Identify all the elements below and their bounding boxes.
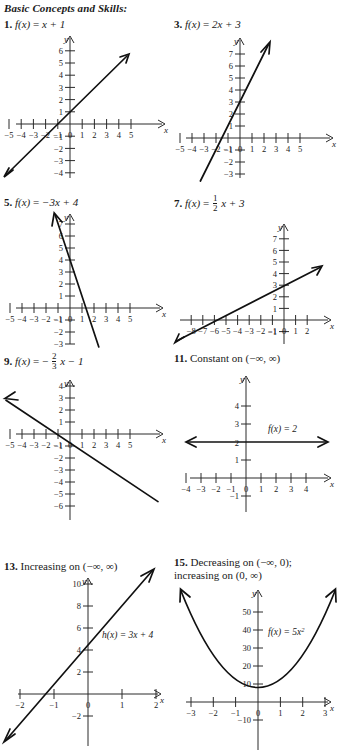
graph-5-svg: −5−4 −3−2 −1 123 45 123 456 7 −1−2−3 0 y… xyxy=(8,210,172,346)
exercise-3-rhs: 2x + 3 xyxy=(212,18,241,30)
exercise-15: 15. Decreasing on (−∞, 0); increasing on… xyxy=(174,556,340,581)
svg-text:20: 20 xyxy=(243,661,252,671)
svg-text:−2: −2 xyxy=(72,711,81,721)
svg-text:−5: −5 xyxy=(5,314,14,324)
svg-text:30: 30 xyxy=(243,643,252,653)
exercise-9-label: 9. f(x) = − 2 3 x − 1 xyxy=(4,352,84,371)
graph-3-axes xyxy=(186,38,333,178)
svg-text:−2: −2 xyxy=(211,484,220,494)
exercise-7-label: 7. f(x) = 1 2 x + 3 xyxy=(174,194,245,213)
exercise-11: 11. Constant on (−∞, ∞) xyxy=(174,352,280,364)
exercise-5-label: 5. f(x) = −3x + 4 xyxy=(4,196,78,208)
svg-text:−2: −2 xyxy=(54,144,63,154)
exercise-13-label: 13. Increasing on (−∞, ∞) xyxy=(4,560,118,572)
graph-3-origin: 0 xyxy=(238,144,242,154)
svg-text:3: 3 xyxy=(59,393,63,403)
svg-text:1: 1 xyxy=(59,291,63,301)
exercise-9: 9. f(x) = − 2 3 x − 1 xyxy=(4,352,84,371)
graph-13: −2−1 12 24 68 10 −2 0 y x h(x) = 3x + 4 xyxy=(8,574,172,752)
svg-text:2: 2 xyxy=(262,144,266,154)
svg-text:7: 7 xyxy=(273,234,277,244)
graph-9: −5−4 −3−2 −1 123 45 123 4 −1−2−3 −4−5−6 … xyxy=(8,376,172,524)
graph-3-ylabel: y xyxy=(233,36,238,46)
exercise-7-denominator: 2 xyxy=(213,203,218,213)
graph-11-svg: −4−3 −2−1 12 34 12 34 −1 0 y x f(x) = 2 xyxy=(180,368,340,514)
svg-text:−1: −1 xyxy=(224,145,233,155)
exercise-3-fn: f(x) xyxy=(185,18,200,30)
svg-text:−2: −2 xyxy=(15,700,24,710)
exercise-3-eq: = xyxy=(203,18,209,30)
svg-text:−1: −1 xyxy=(54,441,63,451)
graph-1-yticklabels: 123 456 −1−2 −3−4 xyxy=(54,46,64,178)
graph-13-origin: 0 xyxy=(86,700,90,710)
graph-15-origin: 0 xyxy=(256,708,260,718)
svg-text:−2: −2 xyxy=(256,326,265,336)
svg-text:6: 6 xyxy=(59,46,63,56)
svg-text:5: 5 xyxy=(229,73,233,83)
svg-text:50: 50 xyxy=(243,607,252,617)
svg-text:2: 2 xyxy=(273,292,277,302)
graph-11: −4−3 −2−1 12 34 12 34 −1 0 y x f(x) = 2 xyxy=(180,368,340,514)
svg-text:2: 2 xyxy=(92,440,96,450)
exercise-9-fn: f(x) xyxy=(15,355,30,367)
svg-text:−4: −4 xyxy=(17,314,27,324)
svg-text:2: 2 xyxy=(59,279,63,289)
graph-11-annotation: f(x) = 2 xyxy=(268,424,297,435)
svg-text:−3: −3 xyxy=(29,314,38,324)
exercise-7-rhs: x + 3 xyxy=(221,197,244,209)
svg-text:−5: −5 xyxy=(5,440,14,450)
exercise-11-label: 11. Constant on (−∞, ∞) xyxy=(174,352,280,364)
svg-text:3: 3 xyxy=(229,97,233,107)
svg-text:6: 6 xyxy=(229,61,233,71)
svg-text:4: 4 xyxy=(116,440,121,450)
exercise-11-number: 11. xyxy=(174,352,187,364)
section-heading: Basic Concepts and Skills: xyxy=(4,2,127,14)
svg-text:5: 5 xyxy=(298,144,302,154)
svg-text:1: 1 xyxy=(80,130,84,140)
exercise-13: 13. Increasing on (−∞, ∞) xyxy=(4,560,118,572)
graph-3: −5−4 −3−2 −1 123 45 123 456 7 −1−2−3 0 y… xyxy=(178,32,342,180)
exercise-5-eq: = xyxy=(33,196,39,208)
graph-5-ylabel: y xyxy=(63,212,68,222)
graph-9-ylabel: y xyxy=(63,378,68,388)
svg-text:2: 2 xyxy=(92,314,96,324)
svg-text:1: 1 xyxy=(80,314,84,324)
svg-text:−2: −2 xyxy=(209,708,218,718)
exercise-9-eq: = xyxy=(33,355,39,367)
svg-text:1: 1 xyxy=(250,144,254,154)
svg-text:4: 4 xyxy=(59,70,64,80)
exercise-7-eq: = xyxy=(203,197,209,209)
svg-text:−5: −5 xyxy=(221,326,230,336)
graph-15-ylabel: y xyxy=(251,588,256,598)
exercise-13-number: 13. xyxy=(4,560,18,572)
exercise-1-rhs: x + 1 xyxy=(42,18,65,30)
svg-text:−4: −4 xyxy=(54,168,64,178)
svg-text:3: 3 xyxy=(104,130,108,140)
graph-11-xlabel: x xyxy=(329,479,334,489)
exercise-9-denominator: 3 xyxy=(52,361,57,371)
exercise-7: 7. f(x) = 1 2 x + 3 xyxy=(174,194,245,213)
svg-text:3: 3 xyxy=(104,314,108,324)
svg-text:1: 1 xyxy=(59,107,63,117)
svg-text:−2: −2 xyxy=(41,440,50,450)
svg-text:−4: −4 xyxy=(233,326,243,336)
exercise-3-number: 3. xyxy=(174,18,182,30)
exercise-5-fn: f(x) xyxy=(15,196,30,208)
svg-text:2: 2 xyxy=(59,95,63,105)
exercise-1-number: 1. xyxy=(4,18,12,30)
svg-text:4: 4 xyxy=(59,381,64,391)
graph-7-origin: 0 xyxy=(282,326,286,336)
graph-13-yticklabels: 24 68 10 −2 xyxy=(72,579,82,721)
graph-9-yticklabels: 123 4 −1−2−3 −4−5−6 xyxy=(54,381,64,511)
graph-1: −5−4 −3−2 −1 12 345 123 456 −1−2 −3−4 0 … xyxy=(8,32,172,180)
svg-text:4: 4 xyxy=(229,85,234,95)
svg-text:−2: −2 xyxy=(41,314,50,324)
svg-text:−2: −2 xyxy=(54,453,63,463)
exercise-9-fraction: 2 3 xyxy=(52,352,57,371)
graph-13-ylabel: y xyxy=(81,576,86,586)
svg-text:−6: −6 xyxy=(54,501,63,511)
exercise-1-eq: = xyxy=(33,18,39,30)
svg-text:−3: −3 xyxy=(224,169,233,179)
graph-11-origin: 0 xyxy=(244,484,248,494)
svg-text:−4: −4 xyxy=(187,144,197,154)
